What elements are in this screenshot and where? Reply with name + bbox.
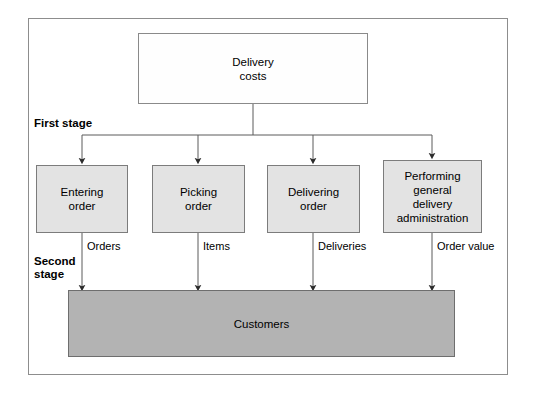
edge-label-items: Items [203, 240, 230, 252]
edge-label-orders: Orders [87, 240, 121, 252]
label-first-stage: First stage [34, 117, 92, 130]
node-entering-order[interactable]: Enteringorder [36, 165, 128, 233]
node-entering-order-label: Enteringorder [61, 185, 104, 213]
edge-label-order-value: Order value [437, 240, 494, 252]
label-second-stage: Secondstage [34, 255, 76, 281]
node-delivering-order-label: Deliveringorder [288, 185, 339, 213]
node-picking-order-label: Pickingorder [180, 185, 217, 213]
node-picking-order[interactable]: Pickingorder [152, 165, 245, 233]
node-customers-label: Customers [234, 317, 290, 331]
node-delivery-costs-label: Deliverycosts [232, 55, 274, 83]
edge-label-deliveries: Deliveries [318, 240, 366, 252]
node-performing-general-delivery-administration-label: Performinggeneraldeliveryadministration [397, 169, 469, 225]
diagram-canvas: Deliverycosts First stage Secondstage En… [0, 0, 533, 394]
node-customers[interactable]: Customers [68, 290, 455, 357]
node-delivering-order[interactable]: Deliveringorder [267, 165, 360, 233]
node-performing-general-delivery-administration[interactable]: Performinggeneraldeliveryadministration [383, 160, 482, 233]
node-delivery-costs[interactable]: Deliverycosts [138, 33, 368, 104]
